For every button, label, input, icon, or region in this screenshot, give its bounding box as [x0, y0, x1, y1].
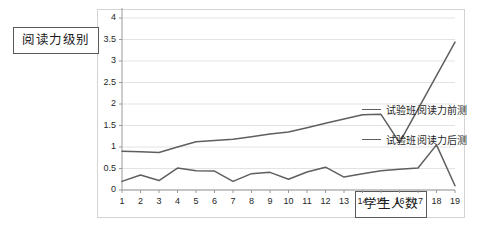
chart-container: 阅读力级别 学生人数 00.511.522.533.54 12345678910…: [0, 0, 487, 243]
chart-plot-area: [0, 0, 487, 243]
legend-swatch-icon: [362, 139, 381, 140]
y-tick-label: 3: [76, 56, 116, 65]
legend-item-pre-test: 试验班阅读力前测: [362, 102, 468, 117]
x-tick-label: 10: [279, 197, 299, 206]
x-tick-label: 7: [223, 197, 243, 206]
x-tick-label: 17: [408, 197, 428, 206]
y-tick-label: 0: [76, 185, 116, 194]
legend-label: 试验班阅读力前测: [386, 102, 468, 117]
x-tick-label: 6: [205, 197, 225, 206]
y-tick-label: 3.5: [76, 35, 116, 44]
x-tick-label: 16: [390, 197, 410, 206]
x-tick-label: 9: [260, 197, 280, 206]
y-tick-label: 1: [76, 142, 116, 151]
series-line-0: [122, 145, 455, 186]
legend-label: 试验班阅读力后测: [386, 132, 468, 147]
y-tick-label: 0.5: [76, 164, 116, 173]
x-tick-label: 15: [371, 197, 391, 206]
y-tick-label: 1.5: [76, 121, 116, 130]
x-tick-label: 4: [168, 197, 188, 206]
legend-swatch-icon: [362, 109, 381, 110]
x-tick-label: 18: [427, 197, 447, 206]
x-tick-label: 14: [353, 197, 373, 206]
y-tick-label: 2.5: [76, 78, 116, 87]
y-tick-label: 2: [76, 99, 116, 108]
x-tick-label: 5: [186, 197, 206, 206]
x-tick-label: 12: [316, 197, 336, 206]
x-tick-label: 3: [149, 197, 169, 206]
y-tick-label: 4: [76, 13, 116, 22]
x-tick-label: 13: [334, 197, 354, 206]
x-tick-label: 2: [131, 197, 151, 206]
x-tick-label: 1: [112, 197, 132, 206]
x-tick-label: 19: [445, 197, 465, 206]
x-tick-label: 8: [242, 197, 262, 206]
x-tick-label: 11: [297, 197, 317, 206]
legend-item-post-test: 试验班阅读力后测: [362, 132, 468, 147]
